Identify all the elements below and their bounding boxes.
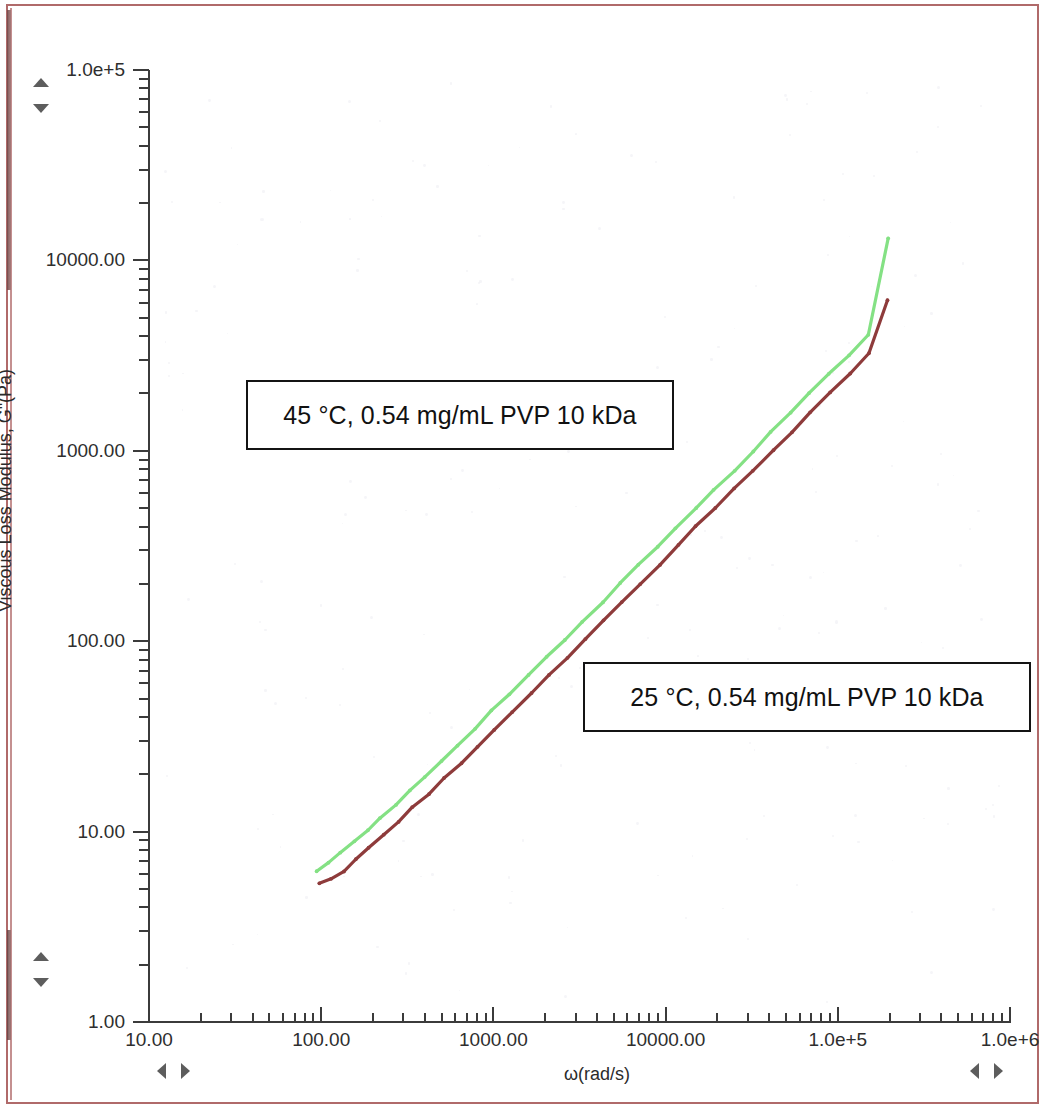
chevron-up-icon[interactable] <box>33 78 49 87</box>
y-tick-minor <box>139 169 149 171</box>
data-point <box>847 353 851 357</box>
noise-dot <box>567 450 570 453</box>
annotation-box-45c: 45 °C, 0.54 mg/mL PVP 10 kDa <box>246 380 674 450</box>
noise-dot <box>937 483 939 485</box>
data-point <box>473 727 477 731</box>
y-tick-minor <box>139 289 149 291</box>
noise-dot <box>372 199 374 201</box>
x-tick-minor <box>716 1013 718 1023</box>
scanned-figure-page: 1.0e+510000.001000.00100.0010.001.00 10.… <box>0 0 1047 1114</box>
noise-dot <box>376 946 379 949</box>
y-tick-minor <box>139 682 149 684</box>
noise-dot <box>348 100 351 103</box>
y-tick-minor <box>139 906 149 908</box>
noise-dot <box>260 218 263 221</box>
noise-dot <box>519 147 520 148</box>
noise-dot <box>431 873 434 876</box>
noise-dot <box>940 453 942 455</box>
y-tick-minor <box>139 87 149 89</box>
noise-dot <box>405 510 406 511</box>
noise-dot <box>992 804 994 806</box>
data-point <box>602 618 606 622</box>
noise-dot <box>818 404 821 407</box>
noise-dot <box>722 908 724 910</box>
noise-dot <box>186 967 188 969</box>
chevron-down-icon[interactable] <box>33 104 49 113</box>
noise-dot <box>717 346 719 348</box>
noise-dot <box>342 668 344 670</box>
noise-dot <box>985 808 988 811</box>
noise-dot <box>998 785 1000 787</box>
noise-dot <box>461 469 464 472</box>
noise-dot <box>825 350 828 353</box>
y-tick-minor <box>139 145 149 147</box>
x-tick-minor <box>785 1013 787 1023</box>
data-point <box>656 545 660 549</box>
y-tick-minor <box>139 849 149 851</box>
y-tick-minor <box>139 649 149 651</box>
noise-dot <box>213 285 216 288</box>
x-tick-minor <box>441 1013 443 1023</box>
y-tick-minor <box>139 507 149 509</box>
chevron-right-icon[interactable] <box>994 1063 1003 1079</box>
chevron-left-icon[interactable] <box>970 1063 979 1079</box>
y-tick-major <box>133 640 149 642</box>
data-point <box>317 881 321 885</box>
noise-dot <box>357 258 359 260</box>
data-point <box>580 620 584 624</box>
y-tick-minor <box>139 583 149 585</box>
noise-dot <box>848 361 850 363</box>
data-point <box>694 524 698 528</box>
y-tick-minor <box>139 459 149 461</box>
noise-dot <box>579 667 581 669</box>
y-tick-label: 100.00 <box>5 630 125 652</box>
noise-dot <box>812 468 813 469</box>
noise-dot <box>720 536 723 539</box>
chevron-up-icon[interactable] <box>33 952 49 961</box>
x-tick-minor <box>648 1013 650 1023</box>
noise-dot <box>166 775 168 777</box>
chevron-left-icon[interactable] <box>157 1063 166 1079</box>
x-tick-minor <box>638 1013 640 1023</box>
noise-dot <box>625 492 627 494</box>
x-axis-scroll-right[interactable] <box>968 1060 1012 1082</box>
noise-dot <box>937 126 940 129</box>
noise-dot <box>405 972 407 974</box>
noise-dot <box>558 677 560 679</box>
x-tick-minor <box>485 1013 487 1023</box>
noise-dot <box>356 269 359 272</box>
x-tick-minor <box>992 1013 994 1023</box>
noise-dot <box>344 513 347 516</box>
x-tick-minor <box>372 1013 374 1023</box>
y-tick-label: 10000.00 <box>5 249 125 271</box>
y-tick-label: 10.00 <box>5 821 125 843</box>
x-tick-minor <box>454 1013 456 1023</box>
y-axis-scroll-top[interactable] <box>30 74 52 130</box>
noise-dot <box>563 576 566 579</box>
noise-dot <box>381 216 382 217</box>
y-axis-line <box>148 70 150 1023</box>
noise-dot <box>689 629 691 631</box>
noise-dot <box>854 814 857 817</box>
data-point <box>408 789 412 793</box>
chevron-down-icon[interactable] <box>33 978 49 987</box>
noise-dot <box>905 765 907 767</box>
noise-dot <box>891 465 893 467</box>
x-axis-scroll-left[interactable] <box>155 1060 199 1082</box>
noise-dot <box>511 278 514 281</box>
noise-dot <box>488 165 489 166</box>
data-point <box>342 870 346 874</box>
noise-dot <box>733 196 735 198</box>
noise-dot <box>364 496 367 499</box>
y-axis-scroll-bottom[interactable] <box>30 948 52 1004</box>
noise-dot <box>921 642 922 643</box>
noise-dot <box>867 331 868 332</box>
x-tick-minor <box>294 1013 296 1023</box>
noise-dot <box>992 908 995 911</box>
noise-dot <box>219 202 221 204</box>
x-tick-minor <box>575 1013 577 1023</box>
chevron-right-icon[interactable] <box>181 1063 190 1079</box>
x-tick-minor <box>544 1013 546 1023</box>
noise-dot <box>980 618 983 621</box>
noise-dot <box>423 634 424 635</box>
